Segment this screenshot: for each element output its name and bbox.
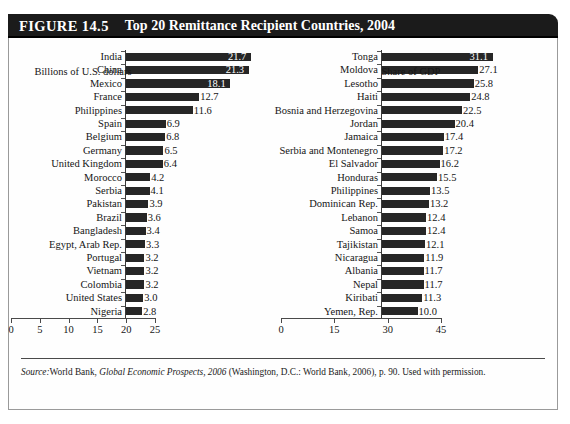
category-label: France — [93, 90, 122, 103]
bar-value-label: 3.2 — [145, 264, 158, 277]
bar-value-label: 4.1 — [151, 184, 164, 197]
category-tick — [121, 172, 125, 173]
category-label: Jamaica — [344, 130, 378, 143]
bar — [382, 200, 429, 208]
bar — [126, 294, 143, 302]
bar — [382, 280, 424, 288]
x-axis-tick-label: 5 — [37, 324, 42, 335]
category-tick — [121, 185, 125, 186]
chart-billions-usd: IndiaChinaMexicoFrancePhilippinesSpainBe… — [11, 44, 279, 350]
category-tick — [377, 131, 381, 132]
x-axis-tick-label: 15 — [329, 324, 340, 335]
x-axis-tick-label: 15 — [92, 324, 103, 335]
category-label: Germany — [83, 144, 122, 157]
plot-area-left: 21.721.318.112.711.66.96.86.56.44.24.13.… — [125, 50, 269, 318]
category-tick — [121, 279, 125, 280]
bar — [382, 106, 462, 114]
bar-value-label: 11.9 — [425, 251, 443, 264]
x-axis-title-right: Share of GDP — [291, 66, 531, 77]
bar — [126, 93, 199, 101]
category-label: Samoa — [349, 224, 378, 237]
category-label: Belgium — [86, 130, 122, 143]
category-label: Nicaragua — [335, 251, 378, 264]
category-tick — [377, 91, 381, 92]
x-axis-tick — [155, 318, 156, 323]
source-prefix: Source: — [21, 367, 50, 377]
bar-value-label: 17.2 — [444, 144, 462, 157]
bar-value-label: 18.1 — [207, 77, 225, 90]
category-tick — [121, 91, 125, 92]
category-tick — [121, 131, 125, 132]
bar — [382, 133, 444, 141]
bar-value-label: 6.5 — [164, 144, 177, 157]
category-tick — [377, 306, 381, 307]
bar — [126, 160, 163, 168]
bar — [382, 267, 424, 275]
category-tick — [377, 225, 381, 226]
x-axis-tick — [11, 318, 12, 323]
bar-value-label: 21.7 — [228, 50, 246, 63]
bar-value-label: 17.4 — [445, 130, 463, 143]
bar — [126, 187, 150, 195]
category-tick — [121, 212, 125, 213]
category-tick — [377, 265, 381, 266]
bar-value-label: 21.3 — [226, 63, 244, 76]
x-axis-title-left: Billions of U.S. dollars — [0, 66, 195, 77]
bar — [126, 280, 144, 288]
x-axis-tick — [97, 318, 98, 323]
bar-value-label: 3.4 — [147, 224, 160, 237]
category-label: Philippines — [331, 184, 378, 197]
bar-value-label: 3.2 — [145, 278, 158, 291]
category-label: Mexico — [90, 77, 122, 90]
category-tick — [121, 198, 125, 199]
bar-value-label: 4.2 — [151, 171, 164, 184]
bar-value-label: 16.2 — [441, 157, 459, 170]
category-label: Serbia and Montenegro — [279, 144, 378, 157]
x-axis-tick-label: 0 — [278, 324, 283, 335]
charts-area: IndiaChinaMexicoFrancePhilippinesSpainBe… — [9, 38, 557, 350]
bar-value-label: 3.9 — [149, 197, 162, 210]
category-label: United Kingdom — [51, 157, 122, 170]
category-tick — [377, 158, 381, 159]
bar — [126, 240, 145, 248]
x-axis-tick-label: 30 — [382, 324, 393, 335]
category-tick — [121, 292, 125, 293]
bar — [382, 93, 470, 101]
x-axis-tick-label: 0 — [8, 324, 13, 335]
bar — [126, 254, 144, 262]
x-axis-tick — [281, 318, 282, 323]
category-label: Brazil — [96, 211, 122, 224]
x-axis-right: 0153045 — [281, 318, 441, 319]
category-label: Haiti — [357, 90, 378, 103]
source-part2: (Washington, D.C.: World Bank, 2006), p.… — [229, 367, 486, 377]
category-tick — [377, 185, 381, 186]
bar — [126, 106, 193, 114]
category-label: United States — [66, 291, 122, 304]
figure-title-bar: FIGURE 14.5 Top 20 Remittance Recipient … — [8, 14, 558, 38]
category-tick — [377, 212, 381, 213]
bar — [382, 173, 437, 181]
bar-value-label: 3.3 — [146, 238, 159, 251]
x-axis-tick-label: 10 — [63, 324, 74, 335]
category-tick — [121, 51, 125, 52]
source-italic-title: Global Economic Prospects, 2006 — [99, 367, 226, 377]
bar — [126, 133, 165, 141]
category-tick — [377, 51, 381, 52]
figure-number: FIGURE 14.5 — [8, 18, 109, 35]
bar-value-label: 11.6 — [194, 104, 212, 117]
x-axis-tick — [126, 318, 127, 323]
x-axis-tick — [40, 318, 41, 323]
bar — [126, 200, 148, 208]
bar — [126, 213, 147, 221]
category-tick — [377, 252, 381, 253]
category-tick — [377, 198, 381, 199]
category-label: Portugal — [86, 251, 122, 264]
bar — [382, 146, 443, 154]
bar-value-label: 11.7 — [425, 264, 443, 277]
category-label: Kiribati — [345, 291, 378, 304]
bar — [126, 227, 146, 235]
bar — [126, 307, 142, 315]
category-tick — [121, 225, 125, 226]
x-axis-tick — [441, 318, 442, 323]
bar-value-label: 12.4 — [427, 224, 445, 237]
